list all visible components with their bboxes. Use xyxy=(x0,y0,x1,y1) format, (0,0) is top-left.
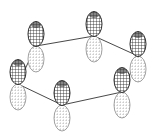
bottom-lobe xyxy=(130,56,146,82)
bond-line xyxy=(36,36,94,46)
bottom-lobe xyxy=(54,105,70,131)
bottom-lobe xyxy=(86,36,102,62)
bond-line xyxy=(62,92,122,105)
p-orbital xyxy=(114,68,130,119)
bottom-lobe xyxy=(10,84,26,110)
bottom-lobe xyxy=(28,46,44,72)
orbital-diagram xyxy=(0,0,159,140)
p-orbital xyxy=(28,22,44,73)
hexagon-orbital-svg xyxy=(0,0,159,140)
bottom-lobe xyxy=(114,92,130,118)
p-orbital xyxy=(54,81,70,132)
p-orbital xyxy=(130,32,146,83)
orbitals xyxy=(10,12,146,132)
p-orbital xyxy=(10,60,26,111)
